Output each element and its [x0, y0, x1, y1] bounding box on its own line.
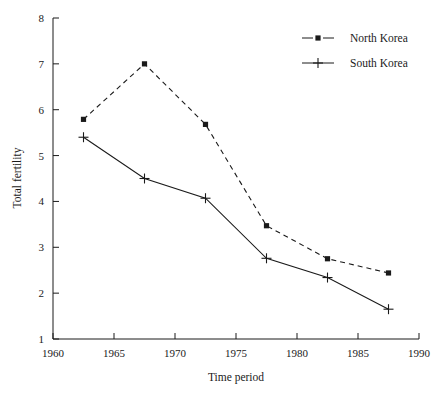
chart-container: 12345678 1960196519701975198019851990 Ti…	[0, 0, 442, 398]
x-axis-title: Time period	[208, 371, 264, 384]
x-tick-label: 1960	[42, 347, 65, 359]
fertility-line-chart: 12345678 1960196519701975198019851990 Ti…	[0, 0, 442, 398]
y-tick-label: 7	[39, 58, 45, 70]
x-tick-label: 1985	[347, 347, 370, 359]
data-point-square-marker	[81, 117, 86, 122]
series-layer	[79, 61, 394, 314]
y-axis-ticks: 12345678	[39, 12, 60, 345]
data-point-square-marker	[325, 256, 330, 261]
legend-label: South Korea	[350, 57, 408, 69]
data-point-square-marker	[203, 122, 208, 127]
series-south-korea	[79, 132, 394, 314]
data-point-square-marker	[386, 270, 391, 275]
y-tick-label: 8	[39, 12, 45, 24]
data-point-square-marker	[264, 223, 269, 228]
series-north-korea	[81, 61, 391, 275]
x-tick-label: 1965	[103, 347, 126, 359]
legend-square-marker	[315, 35, 320, 40]
legend-entry: North Korea	[302, 32, 408, 44]
series-line-2	[84, 137, 389, 309]
chart-legend: North KoreaSouth Korea	[302, 32, 408, 69]
y-tick-label: 6	[39, 104, 45, 116]
x-tick-label: 1975	[225, 347, 248, 359]
y-tick-label: 2	[39, 287, 45, 299]
legend-entry: South Korea	[302, 57, 408, 69]
data-point-square-marker	[142, 61, 147, 66]
x-tick-label: 1980	[286, 347, 309, 359]
y-tick-label: 5	[39, 150, 45, 162]
legend-label: North Korea	[350, 32, 408, 44]
x-tick-label: 1970	[164, 347, 187, 359]
y-axis-title: Total fertility	[11, 147, 24, 208]
y-tick-label: 3	[39, 241, 45, 253]
x-axis-ticks: 1960196519701975198019851990	[42, 333, 431, 359]
x-tick-label: 1990	[408, 347, 431, 359]
y-tick-label: 4	[39, 195, 45, 207]
y-tick-label: 1	[39, 333, 45, 345]
